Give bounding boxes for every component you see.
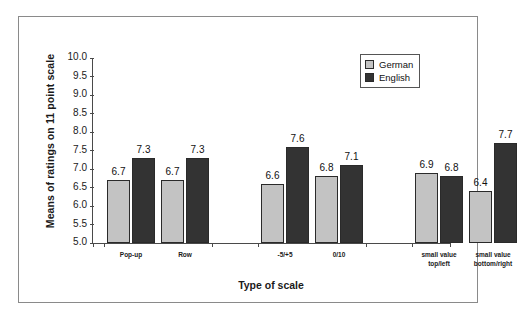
x-axis-tick-mark	[258, 243, 259, 247]
legend-item-label: German	[379, 59, 413, 70]
y-axis-tick-mark	[90, 206, 94, 207]
y-axis-tick-label: 7.0	[73, 162, 87, 173]
y-axis-tick-label: 5.5	[73, 218, 87, 229]
x-axis-tick-mark	[412, 243, 413, 247]
y-axis-tick-mark	[90, 224, 94, 225]
bar-german-5: 6.4	[469, 191, 492, 243]
x-axis-category-label: -5/+5	[278, 250, 293, 259]
y-axis-tick-label: 9.5	[73, 70, 87, 81]
bar-value-label: 7.7	[499, 129, 513, 140]
x-axis-category-line: 0/10	[333, 250, 346, 259]
x-axis-category-line: small value	[474, 250, 512, 259]
y-axis-tick-label: 5.0	[73, 236, 87, 247]
y-axis-tick-mark	[90, 132, 94, 133]
y-axis-tick-label: 6.5	[73, 181, 87, 192]
bar-value-label: 7.1	[345, 151, 359, 162]
bar-value-label: 6.7	[166, 166, 180, 177]
bar-english-0: 7.3	[132, 158, 155, 243]
y-axis-tick-mark	[90, 95, 94, 96]
legend-swatch-icon	[365, 60, 374, 69]
y-axis-tick-mark	[90, 150, 94, 151]
y-axis-title: Means of ratings on 11 point scale	[44, 36, 56, 246]
x-axis-category-line: Row	[178, 250, 192, 259]
bar-german-3: 6.8	[315, 176, 338, 243]
legend-swatch-icon	[365, 73, 374, 82]
x-axis-tick-mark	[212, 243, 213, 247]
bar-english-5: 7.7	[494, 143, 517, 243]
y-axis-tick-mark	[90, 113, 94, 114]
x-axis-category-line: Pop-up	[120, 250, 142, 259]
x-axis-category-label: 0/10	[333, 250, 346, 259]
y-axis-tick-mark	[90, 187, 94, 188]
bar-german-4: 6.9	[415, 173, 438, 243]
y-axis-tick-label: 6.0	[73, 199, 87, 210]
x-axis-tick-mark	[450, 243, 451, 247]
bar-value-label: 6.4	[474, 177, 488, 188]
bar-value-label: 6.7	[112, 166, 126, 177]
y-axis-tick-label: 8.0	[73, 125, 87, 136]
bar-value-label: 6.8	[320, 162, 334, 173]
x-axis-category-line: top/left	[421, 259, 456, 268]
bar-english-2: 7.6	[286, 147, 309, 243]
bar-value-label: 6.8	[445, 162, 459, 173]
x-axis-category-line: bottom/right	[474, 259, 512, 268]
legend-item-label: English	[379, 72, 410, 83]
x-axis-tick-mark	[366, 243, 367, 247]
bar-value-label: 7.6	[291, 133, 305, 144]
x-axis-title: Type of scale	[92, 279, 450, 291]
bar-german-0: 6.7	[107, 180, 130, 243]
bar-value-label: 6.6	[266, 170, 280, 181]
x-axis-category-line: small value	[421, 250, 456, 259]
y-axis-tick-mark	[90, 169, 94, 170]
y-axis-tick-label: 10.0	[68, 51, 87, 62]
y-axis-tick-mark	[90, 58, 94, 59]
bar-english-4: 6.8	[440, 176, 463, 243]
y-axis-tick-label: 9.0	[73, 88, 87, 99]
legend-item-english: English	[365, 71, 413, 84]
bar-english-3: 7.1	[340, 165, 363, 243]
x-axis-category-label: Row	[178, 250, 192, 259]
x-axis-category-line: -5/+5	[278, 250, 293, 259]
y-axis-tick-label: 7.5	[73, 144, 87, 155]
bar-value-label: 6.9	[420, 159, 434, 170]
bar-english-1: 7.3	[186, 158, 209, 243]
figure-frame: Means of ratings on 11 point scale 10.09…	[18, 16, 478, 303]
legend-item-german: German	[365, 58, 413, 71]
y-axis-tick-mark	[90, 76, 94, 77]
bar-value-label: 7.3	[137, 144, 151, 155]
bar-value-label: 7.3	[191, 144, 205, 155]
x-axis-tick-mark	[93, 243, 94, 247]
chart-legend: GermanEnglish	[360, 54, 420, 88]
y-axis-tick-label: 8.5	[73, 107, 87, 118]
bar-german-2: 6.6	[261, 184, 284, 243]
x-axis-tick-mark	[104, 243, 105, 247]
bar-german-1: 6.7	[161, 180, 184, 243]
x-axis-category-label: small valuebottom/right	[474, 250, 512, 269]
x-axis-category-label: small valuetop/left	[421, 250, 456, 269]
x-axis-category-label: Pop-up	[120, 250, 142, 259]
